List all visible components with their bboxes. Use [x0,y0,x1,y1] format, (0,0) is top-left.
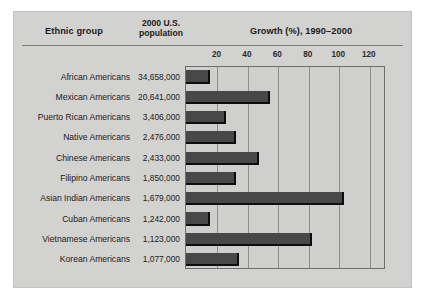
bar-track [186,229,384,249]
row-label-ethnic-group: Vietnamese Americans [18,234,130,244]
bar-growth [186,70,210,83]
row-value-population: 1,679,000 [128,193,180,203]
x-tick-label-80: 80 [303,50,312,59]
row-value-population: 3,406,000 [128,112,180,122]
bar-growth [186,91,270,104]
header-divider [22,45,403,46]
row-label-ethnic-group: Mexican Americans [18,92,130,102]
row-label-ethnic-group: African Americans [18,72,130,82]
bar-growth [186,172,236,185]
chart-row: Vietnamese Americans1,123,000 [0,229,425,249]
row-value-population: 1,242,000 [128,214,180,224]
bar-growth [186,131,236,144]
chart-row: Filipino Americans1,850,000 [0,169,425,189]
row-value-population: 1,077,000 [128,254,180,264]
x-tick-label-60: 60 [273,50,282,59]
bar-growth [186,212,210,225]
bar-track [186,67,384,87]
x-tick-label-20: 20 [212,50,221,59]
row-label-ethnic-group: Puerto Rican Americans [18,112,130,122]
x-tick-label-100: 100 [331,50,345,59]
row-label-ethnic-group: Korean Americans [18,254,130,264]
row-label-ethnic-group: Native Americans [18,132,130,142]
chart-row: Chinese Americans2,433,000 [0,148,425,168]
x-tick-label-40: 40 [242,50,251,59]
bar-growth [186,253,239,266]
chart-row: African Americans34,658,000 [0,67,425,87]
chart-row: Mexican Americans20,641,000 [0,87,425,107]
bar-track [186,189,384,209]
column-header-population: 2000 U.S. population [128,19,194,38]
column-header-population-line2: population [128,29,194,39]
row-label-ethnic-group: Asian Indian Americans [18,193,130,203]
bar-track [186,108,384,128]
chart-row: Native Americans2,476,000 [0,128,425,148]
bar-track [186,209,384,229]
row-label-ethnic-group: Chinese Americans [18,153,130,163]
chart-row: Puerto Rican Americans3,406,000 [0,108,425,128]
bar-growth [186,111,226,124]
chart-row: Asian Indian Americans1,679,000 [0,189,425,209]
row-value-population: 20,641,000 [128,92,180,102]
bar-growth [186,233,312,246]
bar-track [186,128,384,148]
bar-track [186,87,384,107]
row-value-population: 1,123,000 [128,234,180,244]
row-label-ethnic-group: Filipino Americans [18,173,130,183]
row-label-ethnic-group: Cuban Americans [18,214,130,224]
row-value-population: 34,658,000 [128,72,180,82]
row-value-population: 1,850,000 [128,173,180,183]
row-value-population: 2,476,000 [128,132,180,142]
chart-row: Cuban Americans1,242,000 [0,209,425,229]
x-tick-label-120: 120 [362,50,376,59]
row-value-population: 2,433,000 [128,153,180,163]
bar-growth [186,152,259,165]
x-axis-tick-labels: 20406080100120 [0,50,425,62]
column-header-ethnic-group: Ethnic group [18,26,130,36]
chart-row: Korean Americans1,077,000 [0,250,425,270]
column-header-growth: Growth (%), 1990–2000 [196,26,406,36]
bar-track [186,148,384,168]
bar-track [186,250,384,270]
bar-growth [186,192,344,205]
bar-track [186,169,384,189]
chart-figure: Ethnic group 2000 U.S. population Growth… [0,0,425,299]
